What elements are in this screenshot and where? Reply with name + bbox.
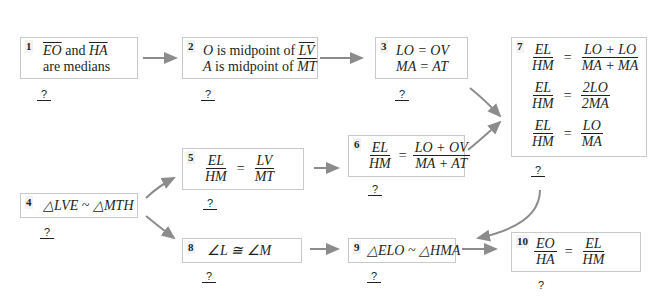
reason-blank-9[interactable]: ? [367,270,381,283]
statement-text: ∠L ≅ ∠M [207,243,271,259]
reason-blank-4[interactable]: ? [40,226,54,239]
statement-text: △ELO ~ △HMA [367,243,460,259]
box-number: 2 [187,40,195,53]
reason-blank-8[interactable]: ? [202,270,216,283]
proof-box-3: 3 LO = OV MA = AT [375,37,468,79]
equation: ELHM = LO + OVMA + AT [367,140,470,171]
denominator: MT [253,169,276,184]
equation: EOHA = ELHM [534,236,606,267]
denominator: HM [530,134,556,149]
segment-eo: EO [43,43,62,58]
point-o: O [203,43,213,58]
statement-text: and [62,43,89,58]
proof-box-5: 5 ELHM = LVMT [182,148,304,190]
numerator: 2LO [581,80,610,96]
numerator: EL [370,140,390,156]
denominator: MA [580,134,604,149]
denominator: HM [530,58,556,73]
denominator: HM [367,156,393,171]
statement-text: LO = OV [396,43,449,59]
arrow-4-to-8 [146,216,174,238]
proof-box-8: 8 ∠L ≅ ∠M [182,238,302,263]
numerator: LO + LO [582,42,638,58]
denominator: MA + MA [580,58,641,73]
box-number: 4 [25,196,33,209]
statement-text: is midpoint of [213,43,299,58]
proof-box-9: 9 △ELO ~ △HMA [348,238,456,263]
box-number: 9 [353,241,361,254]
statement-text: are medians [43,59,110,75]
arrow-7-to-9 [478,190,540,238]
numerator: EO [534,236,557,252]
reason-blank-1[interactable]: ? [37,88,51,101]
box-number: 6 [353,138,361,151]
point-a: A [203,59,212,74]
segment-lv: LV [299,43,315,58]
box-number: 1 [25,40,33,53]
statement-text: is midpoint of [212,59,298,74]
denominator: HA [534,252,557,267]
statement-text: MA = AT [396,59,448,75]
reason-blank-7[interactable]: ? [531,164,545,177]
equation-row-1: ELHM = LO + LOMA + MA [530,42,640,73]
box-number: 7 [516,40,524,53]
equals-sign: = [237,161,245,177]
denominator: HM [203,169,229,184]
arrow-6-to-7 [468,122,500,150]
equation-row-3: ELHM = LOMA [530,118,604,149]
equals-sign: = [564,126,572,142]
numerator: LV [255,153,275,169]
segment-ha: HA [89,43,108,58]
equals-sign: = [564,50,572,66]
proof-box-7: 7 ELHM = LO + LOMA + MA ELHM = 2LO2MA EL… [511,37,647,157]
reason-blank-5[interactable]: ? [203,197,217,210]
proof-box-6: 6 ELHM = LO + OVMA + AT [348,135,465,177]
numerator: EL [206,153,226,169]
numerator: EL [533,80,553,96]
box-number: 3 [380,40,388,53]
equals-sign: = [564,88,572,104]
numerator: EL [583,236,603,252]
box-number: 5 [187,151,195,164]
denominator: HM [530,96,556,111]
reason-blank-3[interactable]: ? [395,88,409,101]
proof-box-1: 1 EO and HA are medians [20,37,138,79]
proof-box-10: 10 EOHA = ELHM [511,232,641,272]
equals-sign: = [565,244,573,260]
numerator: EL [533,42,553,58]
equation-row-2: ELHM = 2LO2MA [530,80,611,111]
statement-text: △LVE ~ △MTH [43,198,134,214]
segment-mt: MT [297,59,316,74]
numerator: LO + OV [413,140,470,156]
denominator: 2MA [580,96,611,111]
reason-blank-10[interactable]: ? [534,279,548,291]
equals-sign: = [399,148,407,164]
arrow-3-to-7 [470,88,500,116]
numerator: EL [533,118,553,134]
denominator: MA + AT [413,156,469,171]
box-number: 8 [187,241,195,254]
proof-box-4: 4 △LVE ~ △MTH [20,193,138,218]
reason-blank-2[interactable]: ? [201,88,215,101]
reason-blank-6[interactable]: ? [368,183,382,196]
equation: ELHM = LVMT [203,153,276,184]
numerator: LO [581,118,603,134]
box-number: 10 [516,235,529,248]
proof-box-2: 2 O is midpoint of LV A is midpoint of M… [182,37,318,79]
denominator: HM [581,252,607,267]
arrow-4-to-5 [146,178,174,198]
